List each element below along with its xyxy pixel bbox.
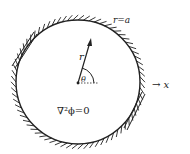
- boundary-label: r=a: [113, 15, 130, 25]
- circular-domain-diagram: r=a r θ ∇²ϕ=0 → x: [0, 0, 190, 154]
- x-axis-label: → x: [152, 79, 170, 90]
- equation-label: ∇²ϕ=0: [57, 105, 90, 116]
- angle-label: θ: [81, 75, 86, 84]
- radius-arrowhead: [87, 38, 92, 46]
